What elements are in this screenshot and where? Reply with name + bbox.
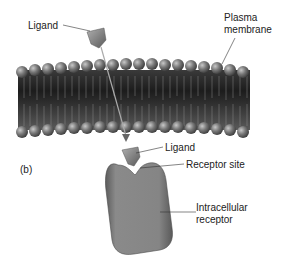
panel-label: (b) xyxy=(20,164,32,175)
label-plasma-membrane-1: Plasma xyxy=(224,12,257,23)
plasma-membrane xyxy=(16,58,250,138)
label-intracellular-2: receptor xyxy=(196,214,233,225)
label-receptor-site: Receptor site xyxy=(186,159,245,170)
label-ligand-bottom: Ligand xyxy=(165,142,195,153)
label-ligand-top: Ligand xyxy=(28,20,58,31)
label-intracellular-1: Intracellular xyxy=(196,202,248,213)
label-plasma-membrane-2: membrane xyxy=(224,24,272,35)
diagram-canvas xyxy=(0,0,285,272)
intracellular-receptor-shape xyxy=(106,163,173,255)
ligand-bottom-shape xyxy=(122,147,140,166)
